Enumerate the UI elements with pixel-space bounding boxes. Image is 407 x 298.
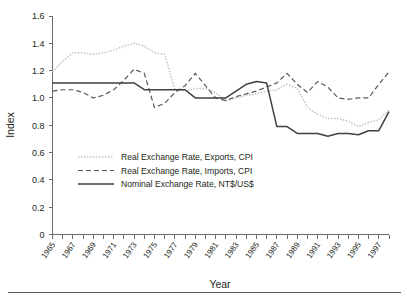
x-tick-label: 1983 <box>223 240 241 260</box>
x-tick-label: 1981 <box>203 240 221 260</box>
legend-label-3: Nominal Exchange Rate, NT$/US$ <box>121 179 254 189</box>
y-tick-label: 0.8 <box>32 121 45 131</box>
x-tick-label: 1985 <box>243 240 261 260</box>
chart-legend: Real Exchange Rate, Exports, CPIReal Exc… <box>78 152 254 189</box>
y-axis: 00.20.40.60.81.01.21.41.6 Index <box>4 11 53 240</box>
chart-figure: 00.20.40.60.81.01.21.41.6 Index 19651967… <box>0 0 407 298</box>
x-tick-labels: 1965196719691971197319751977197919811983… <box>40 240 384 260</box>
x-axis: 1965196719691971197319751977197919811983… <box>40 235 389 291</box>
x-tick-label: 1991 <box>305 240 323 260</box>
x-tick-label: 1975 <box>142 240 160 260</box>
x-tick-label: 1969 <box>80 240 98 260</box>
legend-label-1: Real Exchange Rate, Exports, CPI <box>121 152 253 162</box>
y-tick-label: 1.4 <box>32 39 45 49</box>
y-tick-label: 0.4 <box>32 175 45 185</box>
y-tick-marks <box>49 16 53 235</box>
x-tick-label: 1993 <box>325 240 343 260</box>
y-axis-title: Index <box>4 111 16 137</box>
x-tick-label: 1971 <box>101 240 119 260</box>
x-tick-label: 1997 <box>366 240 384 260</box>
y-tick-label: 1.6 <box>32 11 45 21</box>
y-tick-label: 0 <box>39 230 44 240</box>
x-tick-label: 1979 <box>182 240 200 260</box>
x-tick-label: 1989 <box>284 240 302 260</box>
x-tick-marks <box>53 235 390 239</box>
series-line-2 <box>53 69 390 107</box>
y-tick-label: 1.2 <box>32 66 45 76</box>
series-line-1 <box>53 43 390 126</box>
y-tick-labels: 00.20.40.60.81.01.21.41.6 <box>32 11 45 240</box>
x-tick-label: 1965 <box>40 240 58 260</box>
x-tick-label: 1977 <box>162 240 180 260</box>
y-tick-label: 0.2 <box>32 203 45 213</box>
bottom-rule-divider <box>8 292 401 293</box>
x-tick-label: 1995 <box>345 240 363 260</box>
y-tick-label: 0.6 <box>32 148 45 158</box>
x-tick-label: 1987 <box>264 240 282 260</box>
legend-label-2: Real Exchange Rate, Imports, CPI <box>121 166 252 176</box>
x-tick-label: 1967 <box>60 240 78 260</box>
series-paths <box>53 43 390 136</box>
x-tick-label: 1973 <box>121 240 139 260</box>
x-axis-title: Year <box>209 278 231 290</box>
series-line-3 <box>53 82 390 137</box>
exchange-rate-line-chart: 00.20.40.60.81.01.21.41.6 Index 19651967… <box>0 0 407 298</box>
y-tick-label: 1.0 <box>32 93 45 103</box>
